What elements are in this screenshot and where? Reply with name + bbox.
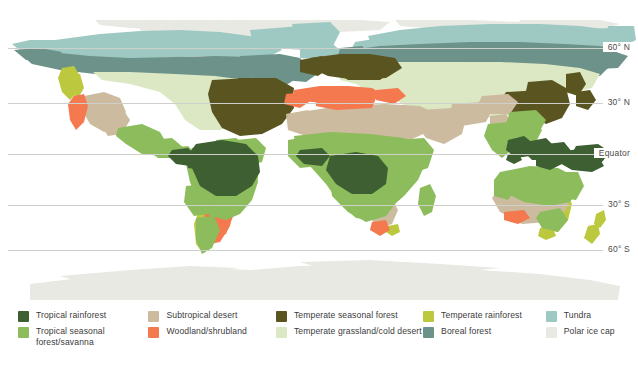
world-biome-map <box>0 0 638 302</box>
legend-label-tropical-rainforest: Tropical rainforest <box>36 310 106 321</box>
legend-swatch-woodland-shrubland <box>148 327 159 338</box>
gridline-60s <box>8 250 630 251</box>
legend-column-4: Temperate rainforest Boreal forest <box>423 310 546 338</box>
legend-item-tropical-rainforest[interactable]: Tropical rainforest <box>18 310 148 322</box>
legend-swatch-temperate-grassland-cold-desert <box>276 327 287 338</box>
legend-item-woodland-shrubland[interactable]: Woodland/shrubland <box>148 326 276 338</box>
legend-item-polar-ice-cap[interactable]: Polar ice cap <box>546 326 634 338</box>
legend-label-temperate-grassland-cold-desert: Temperate grassland/cold desert <box>294 326 422 337</box>
legend-swatch-polar-ice-cap <box>546 327 557 338</box>
map-area: 60° N 30° N Equator 30° S 60° S <box>0 0 638 302</box>
legend-item-temperate-grassland-cold-desert[interactable]: Temperate grassland/cold desert <box>276 326 423 338</box>
legend-label-polar-ice-cap: Polar ice cap <box>564 326 615 337</box>
legend-column-1: Tropical rainforest Tropical seasonal fo… <box>18 310 148 347</box>
legend-item-temperate-seasonal-forest[interactable]: Temperate seasonal forest <box>276 310 423 322</box>
region-antarctica-ice <box>30 260 620 300</box>
lat-label-60s: 60° S <box>603 244 632 254</box>
legend-item-boreal-forest[interactable]: Boreal forest <box>423 326 546 338</box>
gridline-30n <box>8 103 630 104</box>
legend-label-subtropical-desert: Subtropical desert <box>166 310 237 321</box>
gridline-30s <box>8 205 630 206</box>
legend-label-temperate-rainforest: Temperate rainforest <box>441 310 522 321</box>
legend-item-tundra[interactable]: Tundra <box>546 310 634 322</box>
gridline-60n <box>8 48 630 49</box>
legend-swatch-subtropical-desert <box>148 311 159 322</box>
legend-column-3: Temperate seasonal forest Temperate gras… <box>276 310 423 338</box>
map-legend: Tropical rainforest Tropical seasonal fo… <box>0 302 638 370</box>
lat-label-30n: 30° N <box>603 97 632 107</box>
legend-column-5: Tundra Polar ice cap <box>546 310 634 338</box>
legend-swatch-boreal-forest <box>423 327 434 338</box>
legend-swatch-tropical-seasonal-forest-savanna <box>18 327 29 338</box>
legend-item-tropical-seasonal-forest-savanna[interactable]: Tropical seasonal forest/savanna <box>18 326 148 347</box>
legend-item-subtropical-desert[interactable]: Subtropical desert <box>148 310 276 322</box>
legend-swatch-tropical-rainforest <box>18 311 29 322</box>
lat-label-60n: 60° N <box>603 42 632 52</box>
lat-label-30s: 30° S <box>603 199 632 209</box>
legend-label-boreal-forest: Boreal forest <box>441 326 491 337</box>
legend-swatch-temperate-rainforest <box>423 311 434 322</box>
legend-item-temperate-rainforest[interactable]: Temperate rainforest <box>423 310 546 322</box>
legend-label-temperate-seasonal-forest: Temperate seasonal forest <box>294 310 398 321</box>
lat-label-equator: Equator <box>594 148 632 158</box>
legend-label-tropical-seasonal-forest-savanna: Tropical seasonal forest/savanna <box>36 326 148 347</box>
gridline-equator <box>8 154 630 155</box>
legend-swatch-tundra <box>546 311 557 322</box>
legend-label-woodland-shrubland: Woodland/shrubland <box>166 326 246 337</box>
legend-column-2: Subtropical desert Woodland/shrubland <box>148 310 276 338</box>
legend-swatch-temperate-seasonal-forest <box>276 311 287 322</box>
legend-label-tundra: Tundra <box>564 310 592 321</box>
world-biomes-figure: 60° N 30° N Equator 30° S 60° S Tropical… <box>0 0 638 370</box>
